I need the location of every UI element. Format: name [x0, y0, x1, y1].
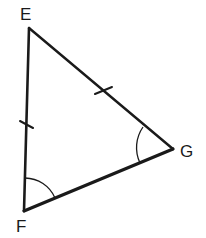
side-ef: [24, 28, 29, 211]
tick-mark-eg: [95, 87, 112, 94]
vertex-label-e: E: [20, 5, 31, 24]
angle-arc-f: [25, 178, 55, 198]
side-eg: [29, 28, 173, 149]
vertex-label-f: F: [16, 217, 26, 236]
side-fg: [24, 149, 173, 211]
angle-arc-g: [137, 127, 143, 163]
triangle-efg-diagram: E F G: [0, 0, 206, 238]
vertex-label-g: G: [180, 142, 193, 161]
